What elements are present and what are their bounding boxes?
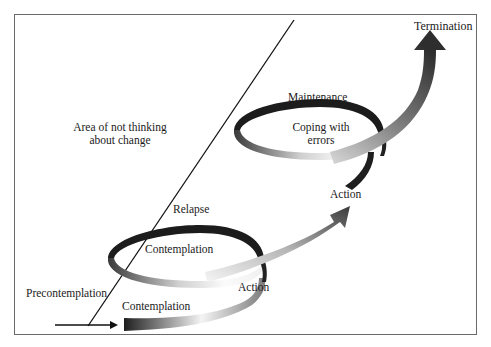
label-precontemplation: Precontemplation bbox=[26, 287, 107, 300]
label-action-lower: Action bbox=[238, 281, 269, 294]
label-relapse: Relapse bbox=[173, 203, 209, 216]
label-maintenance: Maintenance bbox=[288, 91, 347, 104]
label-contemplation-lower: Contemplation bbox=[122, 300, 190, 313]
label-termination: Termination bbox=[414, 20, 472, 33]
label-coping-line2: errors bbox=[284, 134, 358, 147]
label-area-not-thinking: Area of not thinking about change bbox=[60, 121, 180, 147]
label-area-line1: Area of not thinking bbox=[60, 121, 180, 134]
label-contemplation-upper: Contemplation bbox=[145, 243, 213, 256]
label-area-line2: about change bbox=[60, 134, 180, 147]
label-action-upper: Action bbox=[330, 188, 361, 201]
entry-arrow bbox=[55, 321, 118, 329]
label-coping-line1: Coping with bbox=[284, 121, 358, 134]
middle-arrow bbox=[205, 206, 350, 282]
label-coping-with-errors: Coping with errors bbox=[284, 121, 358, 147]
